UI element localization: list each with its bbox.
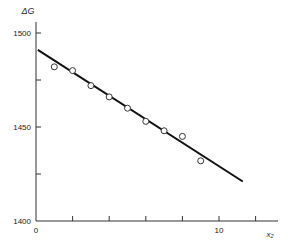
x-tick-label: 10 bbox=[215, 226, 224, 235]
data-point bbox=[125, 105, 131, 111]
regression-line bbox=[38, 50, 243, 182]
data-point bbox=[179, 133, 185, 139]
data-point bbox=[143, 118, 149, 124]
x-tick-label: 0 bbox=[34, 226, 39, 235]
data-point bbox=[70, 68, 76, 74]
data-point bbox=[88, 83, 94, 89]
data-point bbox=[161, 128, 167, 134]
axes bbox=[36, 22, 278, 221]
data-point bbox=[106, 94, 112, 100]
y-tick-label: 1450 bbox=[13, 123, 31, 132]
data-point bbox=[51, 64, 57, 70]
y-tick-label: 1500 bbox=[13, 29, 31, 38]
x-axis-label: x₂ bbox=[265, 230, 273, 239]
data-point bbox=[198, 158, 204, 164]
chart: 010140014501500 ΔG x₂ bbox=[0, 0, 288, 244]
data-points bbox=[51, 64, 203, 164]
axis-ticks: 010140014501500 bbox=[13, 29, 255, 235]
y-axis-label: ΔG bbox=[20, 6, 34, 16]
y-tick-label: 1400 bbox=[13, 217, 31, 226]
fit-line bbox=[38, 50, 243, 182]
